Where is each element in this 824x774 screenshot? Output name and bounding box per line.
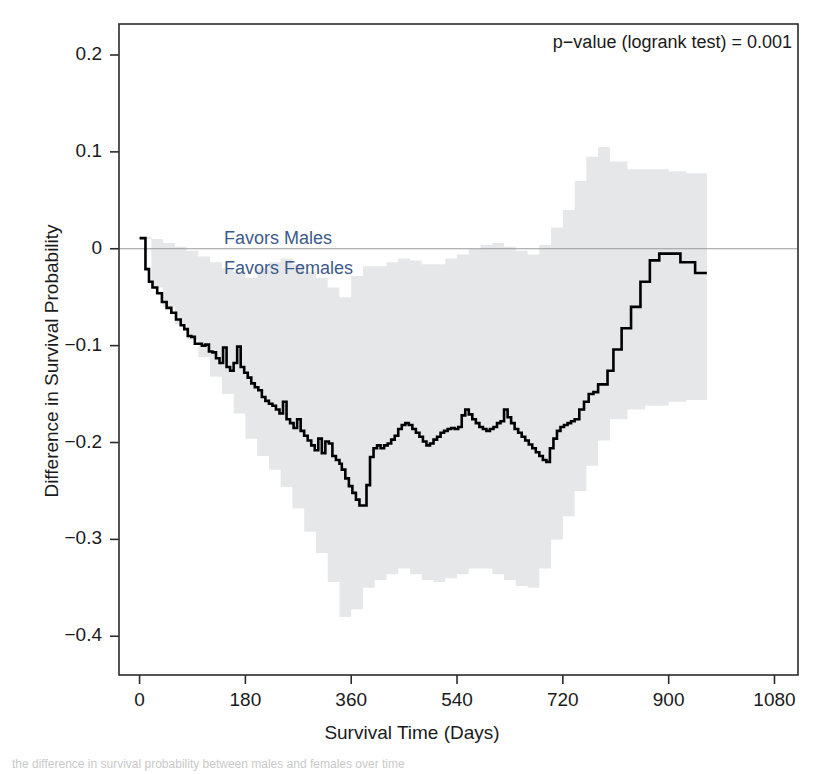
- x-tick-label: 540: [412, 689, 502, 711]
- plot-canvas: [0, 0, 824, 774]
- x-tick-label: 720: [518, 689, 608, 711]
- confidence-band-area: [140, 147, 707, 617]
- x-tick-label: 900: [624, 689, 714, 711]
- y-tick-label: −0.4: [32, 624, 102, 646]
- x-tick-label: 180: [200, 689, 290, 711]
- y-tick-label: 0: [32, 237, 102, 259]
- y-tick-label: −0.3: [32, 527, 102, 549]
- y-tick-label: 0.2: [32, 43, 102, 65]
- confidence-band: [140, 147, 707, 617]
- figure-caption-fragment: the difference in survival probability b…: [0, 757, 824, 774]
- y-tick-label: −0.2: [32, 431, 102, 453]
- y-tick-label: 0.1: [32, 140, 102, 162]
- survival-difference-figure: Difference in Survival Probability Survi…: [0, 0, 824, 774]
- favors-females-label: Favors Females: [224, 258, 353, 279]
- favors-males-label: Favors Males: [224, 228, 332, 249]
- x-tick-label: 360: [306, 689, 396, 711]
- y-axis-label: Difference in Survival Probability: [41, 131, 63, 591]
- pvalue-annotation: p−value (logrank test) = 0.001: [553, 32, 792, 53]
- x-tick-label: 0: [95, 689, 185, 711]
- x-axis-label: Survival Time (Days): [0, 722, 824, 744]
- x-tick-label: 1080: [729, 689, 819, 711]
- y-tick-label: −0.1: [32, 334, 102, 356]
